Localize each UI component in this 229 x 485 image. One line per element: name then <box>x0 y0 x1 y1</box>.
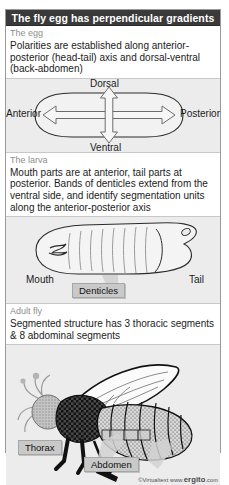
larva-section-heading: The larva <box>10 155 216 166</box>
egg-section-heading: The egg <box>10 28 216 39</box>
egg-label-dorsal: Dorsal <box>90 78 119 89</box>
egg-label-posterior: Posterior <box>180 108 220 119</box>
adult-text-block: Adult fly Segmented structure has 3 thor… <box>6 304 220 345</box>
abdomen-callout: Abdomen <box>84 457 139 472</box>
egg-label-anterior: Anterior <box>6 108 41 119</box>
fly-bristle-tip <box>33 373 39 379</box>
larva-section-body: Mouth parts are at anterior, tail parts … <box>10 167 216 213</box>
larva-label-mouth: Mouth <box>26 274 54 285</box>
adult-fly-diagram: Thorax Abdomen ©Virtualtext www.ergito.c… <box>6 345 220 485</box>
thorax-callout: Thorax <box>18 440 62 455</box>
figure-title-bar: The fly egg has perpendicular gradients <box>6 10 220 26</box>
egg-section-body: Polarities are established along anterio… <box>10 40 216 75</box>
adult-section-body: Segmented structure has 3 thoracic segme… <box>10 318 216 341</box>
credit-line: ©Virtualtext www.ergito.com <box>138 475 218 484</box>
fly-bristle-tip-2 <box>20 379 25 384</box>
larva-outline <box>36 223 196 274</box>
egg-label-ventral: Ventral <box>90 142 121 153</box>
egg-text-block: The egg Polarities are established along… <box>6 26 220 79</box>
credit-suffix: .com <box>205 477 218 483</box>
credit-prefix: ©Virtualtext www. <box>138 477 184 483</box>
credit-brand: ergito <box>184 475 206 484</box>
larva-diagram: Mouth Tail Denticles <box>6 217 220 304</box>
larva-label-tail: Tail <box>189 274 204 285</box>
larva-text-block: The larva Mouth parts are at anterior, t… <box>6 153 220 217</box>
denticles-callout: Denticles <box>72 283 125 298</box>
egg-diagram: Dorsal Ventral Anterior Posterior <box>6 79 220 153</box>
adult-section-heading: Adult fly <box>10 306 216 317</box>
page-title: The fly egg has perpendicular gradients <box>12 12 215 24</box>
figure-panel: The fly egg has perpendicular gradients … <box>5 9 221 453</box>
